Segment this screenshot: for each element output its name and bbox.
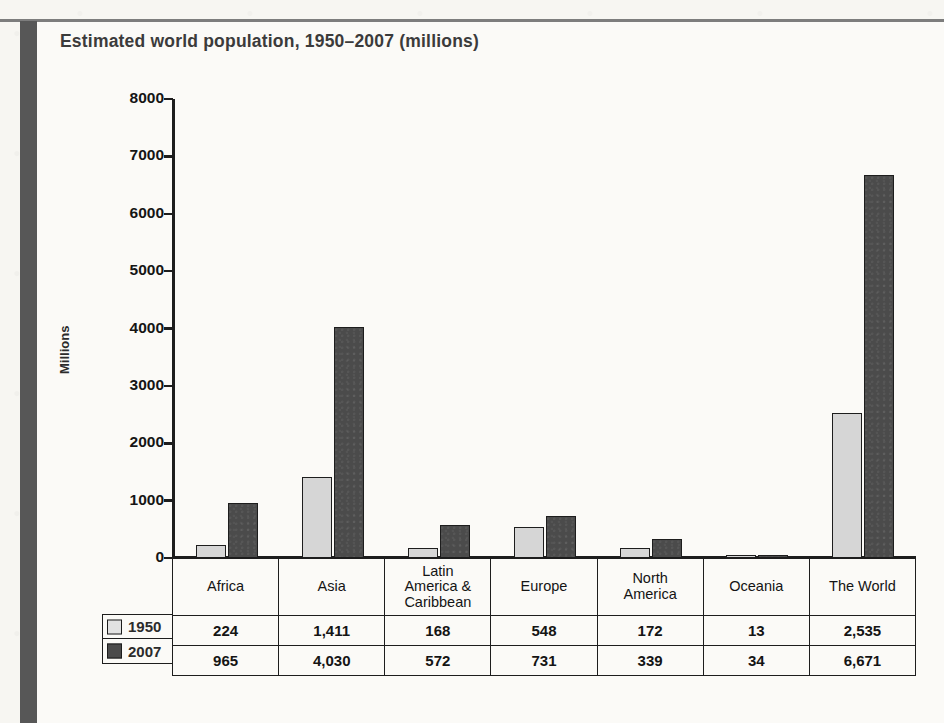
table-column-header: The World (809, 559, 915, 616)
table-row: 2241,411168548172132,535 (173, 616, 916, 646)
table-cell: 1,411 (279, 616, 385, 646)
page-title: Estimated world population, 1950–2007 (m… (60, 31, 479, 52)
y-tick-label-wrap: 3000 (104, 386, 164, 387)
plot-area (174, 99, 916, 558)
bar-2007-north-america (652, 539, 682, 558)
table-row: 9654,030572731339346,671 (173, 646, 916, 676)
table-head: AfricaAsiaLatinAmerica &CaribbeanEuropeN… (173, 559, 916, 616)
bar-1950-europe (514, 527, 544, 558)
bar-1950-africa (196, 545, 226, 558)
y-tick-label: 2000 (106, 433, 164, 451)
bar-group (704, 99, 810, 558)
bar-2007-latin-america-caribbean (440, 525, 470, 558)
table-header-row: AfricaAsiaLatinAmerica &CaribbeanEuropeN… (173, 559, 916, 616)
table-cell: 34 (703, 646, 809, 676)
table-cell: 2,535 (809, 616, 915, 646)
y-tick-label-wrap: 1000 (104, 501, 164, 502)
legend-item[interactable]: 1950 (102, 614, 172, 639)
legend-label: 1950 (128, 618, 161, 635)
bar-1950-asia (302, 477, 332, 558)
table-cell: 13 (703, 616, 809, 646)
y-tick-label-wrap: 2000 (104, 443, 164, 444)
y-tick-label-wrap: 6000 (104, 214, 164, 215)
y-tick-label-wrap: 4000 (104, 329, 164, 330)
y-tick-label: 0 (106, 548, 164, 566)
y-tick-label: 6000 (106, 204, 164, 222)
table-column-header-line: America & (387, 579, 488, 595)
table-column-header: Europe (491, 559, 597, 616)
bar-group (280, 99, 386, 558)
table-column-header: Africa (173, 559, 279, 616)
data-table-wrapper: 19502007 AfricaAsiaLatinAmerica &Caribbe… (172, 558, 916, 676)
table-column-header: Asia (279, 559, 385, 616)
table-column-header-line: North (600, 571, 701, 587)
table-column-header-line: Europe (493, 579, 594, 595)
bar-1950-north-america (620, 548, 650, 558)
table-column-header-line: Latin (387, 564, 488, 580)
table-cell: 172 (597, 616, 703, 646)
bar-2007-europe (546, 516, 576, 558)
left-margin-bar (20, 21, 37, 723)
table-cell: 339 (597, 646, 703, 676)
table-column-header-line: Caribbean (387, 595, 488, 611)
table-column-header-line: The World (812, 579, 913, 595)
table-cell: 965 (173, 646, 279, 676)
light-swatch-icon (107, 619, 122, 634)
table-column-header: NorthAmerica (597, 559, 703, 616)
bar-group (492, 99, 598, 558)
legend-label: 2007 (128, 643, 161, 660)
bar-group (174, 99, 280, 558)
legend-box: 19502007 (102, 614, 172, 664)
y-tick-label-wrap: 8000 (104, 99, 164, 100)
y-tick-label: 4000 (106, 319, 164, 337)
legend-item[interactable]: 2007 (102, 639, 172, 664)
bar-group (810, 99, 916, 558)
table-cell: 4,030 (279, 646, 385, 676)
table-column-header-line: Oceania (706, 579, 807, 595)
y-tick-label-wrap: 0 (104, 558, 164, 559)
y-tick-label-wrap: 7000 (104, 156, 164, 157)
table-cell: 572 (385, 646, 491, 676)
y-tick-label: 8000 (106, 89, 164, 107)
bar-group (598, 99, 704, 558)
table-cell: 6,671 (809, 646, 915, 676)
table-body: 2241,411168548172132,5359654,03057273133… (173, 616, 916, 676)
table-cell: 548 (491, 616, 597, 646)
table-cell: 168 (385, 616, 491, 646)
table-cell: 224 (173, 616, 279, 646)
y-tick-label: 5000 (106, 261, 164, 279)
table-cell: 731 (491, 646, 597, 676)
y-axis-label: Millions (57, 326, 72, 374)
bar-group (386, 99, 492, 558)
data-table: AfricaAsiaLatinAmerica &CaribbeanEuropeN… (172, 558, 916, 676)
y-tick-label: 1000 (106, 491, 164, 509)
bar-1950-the-world (832, 413, 862, 558)
dark-swatch-icon (107, 644, 122, 659)
y-tick-label: 7000 (106, 146, 164, 164)
table-column-header-line: Africa (175, 579, 276, 595)
bar-2007-the-world (864, 175, 894, 558)
table-column-header: LatinAmerica &Caribbean (385, 559, 491, 616)
y-tick-label: 3000 (106, 376, 164, 394)
bar-2007-asia (334, 327, 364, 558)
table-column-header-line: America (600, 587, 701, 603)
y-tick-label-wrap: 5000 (104, 271, 164, 272)
bar-1950-latin-america-caribbean (408, 548, 438, 558)
table-column-header: Oceania (703, 559, 809, 616)
table-column-header-line: Asia (281, 579, 382, 595)
bar-2007-africa (228, 503, 258, 558)
bar-chart: Millions 0100020003000400050006000700080… (60, 78, 920, 578)
